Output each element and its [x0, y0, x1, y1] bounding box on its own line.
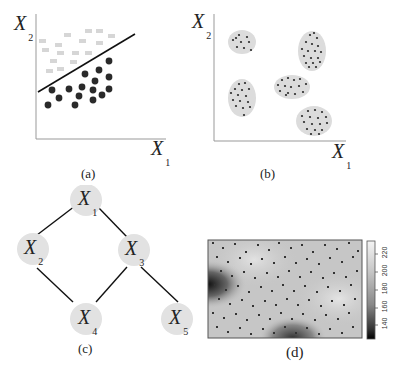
- y-axis-label: X2: [192, 10, 209, 35]
- colorbar: [367, 241, 375, 339]
- caption-a: (a): [81, 166, 95, 182]
- node-label-x5: X5: [169, 306, 186, 331]
- node-label-x3: X3: [125, 237, 142, 262]
- panel-b-plot: [200, 0, 402, 185]
- x-axis-label-subscript: 1: [346, 160, 351, 171]
- nodes: [17, 185, 193, 335]
- x-axis-label-subscript: 1: [165, 157, 170, 168]
- x-axis-label-text: X: [151, 137, 163, 159]
- node-label-text: X: [24, 236, 36, 258]
- colorbar-tick-140: 140: [381, 318, 388, 330]
- node-label-subscript: 4: [92, 326, 97, 337]
- node-label-subscript: 1: [92, 207, 97, 218]
- edges: [37, 206, 178, 302]
- panel-b-clustering: X2 X1 (b): [200, 0, 402, 185]
- caption-b: (b): [260, 166, 275, 182]
- colorbar-tick-180: 180: [381, 283, 388, 295]
- class-squares: [39, 29, 115, 73]
- caption-c: (c): [78, 341, 92, 357]
- node-label-x4: X4: [78, 306, 95, 331]
- panel-a-classification: X2 X1 (a): [0, 0, 200, 185]
- node-label-subscript: 2: [38, 256, 43, 267]
- caption-d: (d): [286, 344, 304, 361]
- colorbar-tick-160: 160: [381, 301, 388, 313]
- node-label-x2: X2: [24, 236, 41, 261]
- panel-d-heatmap: 140 160 180 200 220 (d): [200, 200, 402, 369]
- cluster-ellipses: [228, 30, 332, 136]
- node-label-text: X: [78, 306, 90, 328]
- y-axis-label-subscript: 2: [206, 30, 211, 41]
- y-axis-label-subscript: 2: [28, 32, 33, 43]
- node-label-subscript: 5: [183, 326, 188, 337]
- class-dots: [45, 58, 113, 109]
- node-label-x1: X1: [78, 187, 95, 212]
- node-label-text: X: [169, 306, 181, 328]
- panel-c-graph: X1 X2 X3 X4 X5 (c): [0, 185, 200, 369]
- y-axis-label-text: X: [14, 12, 26, 34]
- x-axis-label: X1: [151, 137, 168, 162]
- y-axis-label-text: X: [192, 10, 204, 32]
- x-axis-label-text: X: [332, 140, 344, 162]
- colorbar-ticks: [375, 254, 378, 325]
- graph-edges: [0, 185, 200, 369]
- node-label-text: X: [125, 237, 137, 259]
- y-axis-label: X2: [14, 12, 31, 37]
- node-label-text: X: [78, 187, 90, 209]
- colorbar-tick-220: 220: [381, 247, 388, 259]
- node-label-subscript: 3: [139, 257, 144, 268]
- colorbar-tick-200: 200: [381, 265, 388, 277]
- x-axis-label: X1: [332, 140, 349, 165]
